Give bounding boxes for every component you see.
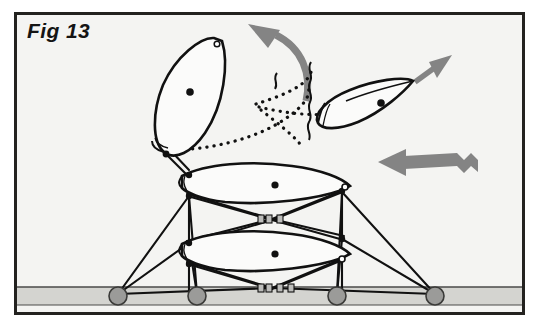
wing-detaching: [152, 38, 225, 157]
figure-container: Fig 13: [0, 0, 539, 328]
figure-illustration: [0, 0, 539, 328]
center-of-mass-dot: [271, 181, 278, 188]
figure-label: Fig 13: [27, 20, 90, 41]
rotation-arrow-curved: [248, 24, 308, 101]
bridle-connector-upper: [258, 215, 283, 223]
wind-arrow-wavy: [378, 149, 478, 176]
center-of-mass-dot: [377, 99, 385, 107]
center-of-mass-dot: [271, 250, 278, 257]
flight-arrow-straight: [415, 55, 452, 82]
wing-free-flying: [317, 79, 413, 128]
center-of-mass-dot: [186, 88, 194, 96]
